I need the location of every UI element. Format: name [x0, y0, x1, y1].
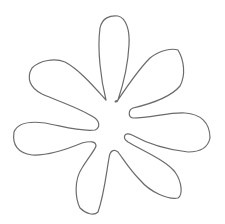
flower-drawing — [0, 0, 225, 224]
flower-outline-svg — [0, 0, 225, 224]
flower-outline — [14, 16, 210, 214]
